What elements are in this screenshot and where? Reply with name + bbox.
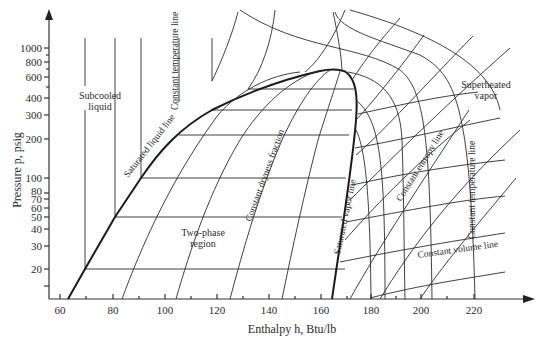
- y-tick-20: 20: [31, 263, 43, 275]
- const-temp-right-label: Constant temperature line: [467, 141, 477, 239]
- ph-diagram: 1000 800 600 400 300 200 100 80 70 60 50…: [0, 0, 537, 343]
- x-tick-220: 220: [466, 304, 483, 316]
- y-tick-30: 30: [31, 240, 43, 252]
- x-tick-80: 80: [108, 304, 120, 316]
- superheated-label-line1: Superheated: [461, 79, 510, 90]
- region-labels: Subcooled liquid Two-phase region Superh…: [79, 79, 511, 249]
- y-tick-50: 50: [31, 211, 43, 223]
- superheat-isotherms: [240, 10, 500, 299]
- x-axis-label: Enthalpy h, Btu/lb: [248, 322, 336, 336]
- x-tick-labels: 60 80 100 120 140 160 180 200 220: [55, 304, 483, 316]
- y-tick-40: 40: [31, 223, 43, 235]
- y-tick-800: 800: [26, 56, 43, 68]
- superheated-label-line2: vapor: [475, 90, 498, 101]
- x-tick-100: 100: [157, 304, 174, 316]
- x-tick-140: 140: [261, 304, 278, 316]
- x-tick-180: 180: [363, 304, 380, 316]
- y-ticks: [44, 48, 49, 286]
- const-volume-label: Constant volume line: [417, 239, 499, 260]
- two-phase-label-line2: region: [190, 238, 216, 249]
- line-labels: Constant temperature line Saturated liqu…: [122, 12, 499, 260]
- y-tick-600: 600: [26, 71, 43, 83]
- two-phase-label-line1: Two-phase: [181, 227, 225, 238]
- y-tick-400: 400: [26, 92, 43, 104]
- x-tick-200: 200: [413, 304, 430, 316]
- y-tick-1000: 1000: [20, 42, 43, 54]
- subcooled-label-line1: Subcooled: [79, 90, 121, 101]
- y-tick-100: 100: [26, 172, 43, 184]
- sat-liquid-label: Saturated liquid line: [122, 112, 177, 179]
- y-axis-label: Pressure p, psig: [10, 132, 24, 208]
- x-tick-160: 160: [313, 304, 330, 316]
- y-tick-300: 300: [26, 109, 43, 121]
- dryness-lines: [122, 70, 340, 299]
- const-dryness-label: Constant dryness fraction: [243, 128, 286, 223]
- x-tick-60: 60: [55, 304, 67, 316]
- x-axis-arrow-icon: [523, 295, 535, 303]
- x-tick-120: 120: [209, 304, 226, 316]
- subcooled-label-line2: liquid: [88, 101, 111, 112]
- const-temp-left-label: Constant temperature line: [170, 12, 180, 110]
- y-tick-200: 200: [26, 133, 43, 145]
- volume-lines: [340, 92, 505, 298]
- y-axis-arrow-icon: [45, 9, 53, 20]
